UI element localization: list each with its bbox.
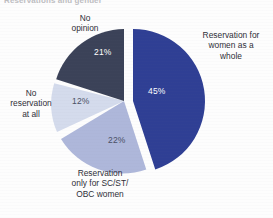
slice-value-no-reservation-at-all: 12% — [72, 96, 90, 106]
slice-value-reservation-for-women-as-a-whole: 45% — [148, 86, 166, 96]
chart-page: Reservations and gender 45% 22% 12% 21% … — [0, 0, 273, 218]
pie-label-reservation-for-women-as-a-whole: Reservation for women as a whole — [190, 30, 272, 61]
pie-label-no-reservation-at-all: No reservation at all — [0, 88, 62, 119]
pie-chart: 45% 22% 12% 21% Reservation for women as… — [0, 0, 273, 218]
slice-value-reservation-only-for-sc-st-obc-women: 22% — [108, 135, 126, 145]
slice-value-no-opinion: 21% — [94, 47, 112, 57]
pie-label-reservation-only-for-sc-st-obc-women: Reservation only for SC/ST/ OBC women — [48, 168, 152, 199]
pie-label-no-opinion: No opinion — [60, 13, 110, 34]
